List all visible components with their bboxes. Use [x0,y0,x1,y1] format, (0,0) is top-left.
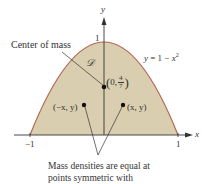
caption-line-1: Mass densities are equal at [48,160,150,172]
curve-eq-middle: = 1 − [148,53,172,63]
diagram-graphics [0,0,206,184]
x-tick-pos-label: 1 [176,140,181,149]
y-tick-label: 1 [95,34,100,43]
caption: Mass densities are equal at points symme… [48,160,150,184]
x-axis-arrow-icon [185,133,193,138]
fraction-denominator: 7 [119,83,123,90]
centroid-coordinates: (0,47) [106,75,129,90]
caption-line-2: points symmetric with [48,172,150,184]
x-tick-neg-label: −1 [25,140,35,149]
center-of-mass-diagram: y x 1 −1 1 y = 1 − x2 𝒟 Center of mass (… [0,0,206,184]
centroid-coord-prefix: 0, [110,77,117,87]
x-axis-label: x [195,130,199,139]
point-neg-label: (−x, y) [53,103,78,112]
point-pos-label: (x, y) [127,103,147,112]
point-pos-dot [121,103,125,107]
region-d-label: 𝒟 [86,58,94,68]
curve-eq-exponent: 2 [176,52,179,58]
center-of-mass-label: Center of mass [11,40,71,50]
point-neg-dot [82,103,86,107]
centroid-fraction: 47 [118,75,124,90]
y-axis-label: y [101,5,105,14]
y-axis-arrow-icon [102,17,107,25]
curve-equation: y = 1 − x2 [144,52,179,63]
